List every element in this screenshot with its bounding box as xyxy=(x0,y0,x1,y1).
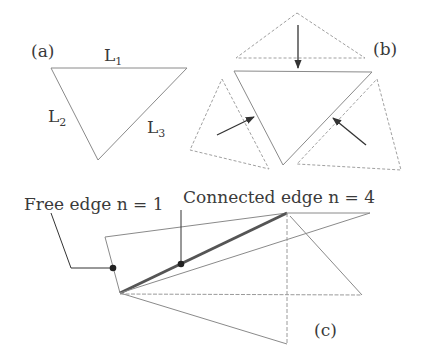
edge-bottom xyxy=(120,293,287,344)
edge-label-l3: L3 xyxy=(147,117,165,140)
main-triangle-b xyxy=(234,71,372,165)
edge-diagonal xyxy=(290,216,362,295)
free-edge-dot xyxy=(110,265,117,272)
connected-edge-label: Connected edge n = 4 xyxy=(183,187,375,207)
panel-c: Free edge n = 1 Connected edge n = 4 (c) xyxy=(24,187,375,344)
panel-b-label: (b) xyxy=(373,39,397,59)
dashed-triangle-left xyxy=(190,79,269,169)
triangle-a xyxy=(51,68,187,160)
connected-edge-dot xyxy=(178,261,185,268)
dashed-triangle-right xyxy=(297,79,401,170)
arrow-right-icon xyxy=(217,117,254,135)
edge-label-l1: L1 xyxy=(104,45,122,68)
free-edge-label: Free edge n = 1 xyxy=(24,194,164,214)
panel-a: (a) L1 L2 L3 xyxy=(31,41,187,160)
panel-c-label: (c) xyxy=(314,320,337,340)
diagram-canvas: (a) L1 L2 L3 (b) Free edge n = 1 Connect… xyxy=(0,0,424,362)
dashed-triangle-top xyxy=(236,13,365,58)
panel-a-label: (a) xyxy=(31,41,54,61)
edge-horizontal xyxy=(120,294,362,295)
edge-long xyxy=(120,213,370,293)
panel-b: (b) xyxy=(190,13,401,170)
edge-connected xyxy=(120,213,287,293)
free-edge-leader xyxy=(51,213,113,268)
edge-label-l2: L2 xyxy=(48,106,66,129)
arrow-left-icon xyxy=(333,118,366,145)
